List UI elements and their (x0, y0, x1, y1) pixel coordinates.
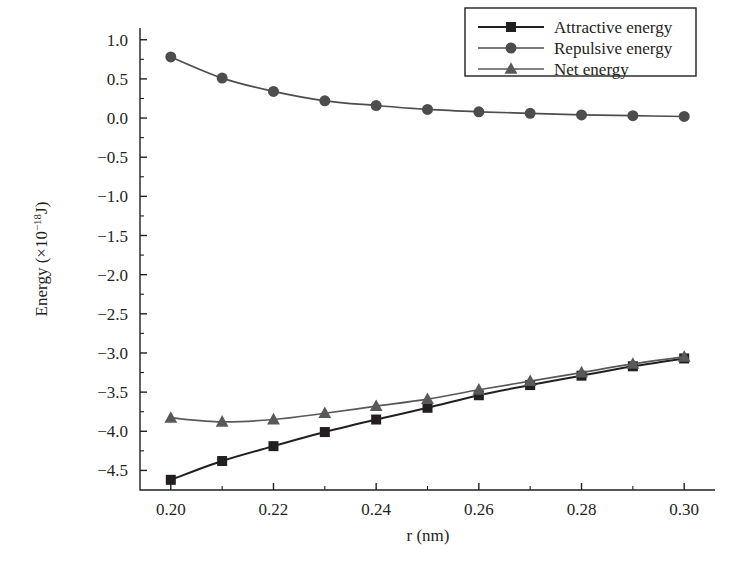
x-tick-label: 0.26 (464, 500, 494, 519)
circle-marker (371, 100, 382, 111)
circle-marker (525, 108, 536, 119)
square-marker (371, 415, 381, 425)
y-tick-label: −4.5 (97, 461, 128, 480)
y-tick-label: −3.0 (97, 344, 128, 363)
y-axis-title-text: Energy (×10−18J) (31, 202, 51, 317)
y-tick-label: −2.0 (97, 266, 128, 285)
chart-canvas: 1.00.50.0−0.5−1.0−1.5−2.0−2.5−3.0−3.5−4.… (0, 0, 750, 567)
circle-marker (217, 73, 228, 84)
energy-vs-distance-chart: 1.00.50.0−0.5−1.0−1.5−2.0−2.5−3.0−3.5−4.… (0, 0, 750, 567)
series-line (171, 358, 684, 479)
series-square (166, 353, 689, 484)
circle-marker (268, 86, 279, 97)
circle-marker (473, 106, 484, 117)
x-tick-label: 0.20 (156, 500, 186, 519)
y-axis-title-suffix: J) (32, 202, 51, 214)
y-tick-label: −1.0 (97, 187, 128, 206)
plot-axes (140, 28, 715, 490)
square-marker (423, 403, 433, 413)
legend-item-label: Repulsive energy (554, 39, 673, 58)
x-tick-label: 0.28 (567, 500, 597, 519)
square-marker (268, 441, 278, 451)
y-tick-label: −4.0 (97, 422, 128, 441)
square-marker (320, 427, 330, 437)
y-axis-title: Energy (×10−18J) (31, 202, 51, 317)
x-tick-label: 0.24 (361, 500, 391, 519)
chart-legend: Attractive energyRepulsive energyNet ene… (465, 8, 696, 79)
x-axis-tick-labels: 0.200.220.240.260.280.30 (156, 500, 699, 519)
y-tick-label: 0.5 (107, 70, 128, 89)
y-tick-label: 1.0 (107, 31, 128, 50)
y-tick-label: −0.5 (97, 148, 128, 167)
x-tick-label: 0.30 (669, 500, 699, 519)
square-marker (166, 475, 176, 485)
square-marker (506, 22, 516, 32)
y-tick-label: −1.5 (97, 227, 128, 246)
legend-item-label: Net energy (554, 60, 629, 79)
circle-marker (165, 51, 176, 62)
circle-marker (319, 95, 330, 106)
circle-marker (576, 109, 587, 120)
circle-marker (422, 104, 433, 115)
y-tick-label: −3.5 (97, 383, 128, 402)
x-axis-title: r (nm) (407, 526, 450, 545)
y-axis-title-exponent: −18 (31, 213, 43, 231)
square-marker (217, 456, 227, 466)
x-axis-title-text: r (nm) (407, 526, 450, 545)
series-triangle (164, 350, 690, 427)
y-tick-label: 0.0 (107, 109, 128, 128)
legend-item-label: Attractive energy (554, 18, 673, 37)
data-series-layer (164, 51, 690, 484)
y-axis-tick-labels: 1.00.50.0−0.5−1.0−1.5−2.0−2.5−3.0−3.5−4.… (97, 31, 128, 481)
x-tick-label: 0.22 (259, 500, 289, 519)
circle-marker (627, 110, 638, 121)
triangle-marker (164, 411, 177, 423)
y-tick-label: −2.5 (97, 305, 128, 324)
circle-marker (506, 43, 517, 54)
circle-marker (679, 111, 690, 122)
y-axis-title-prefix: Energy (×10 (32, 231, 51, 316)
